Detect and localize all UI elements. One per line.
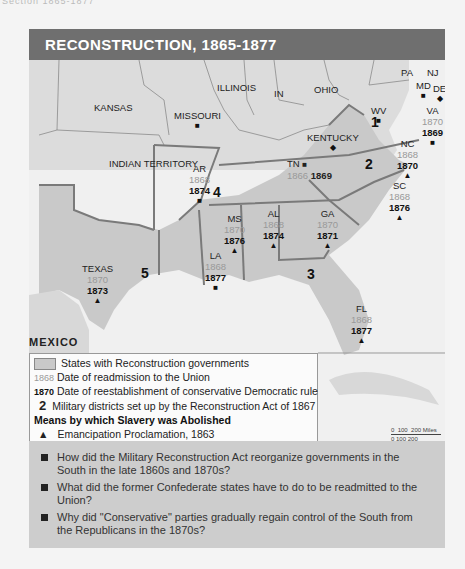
state-nc: NC18681870▲ [397, 138, 418, 180]
map-scale: 0 100 200 Miles 0 100 200 Kilometers [391, 427, 445, 441]
legend-readmission: 1868 Date of readmission to the Union [34, 371, 210, 383]
legend-district: 2Military districts set up by the Recons… [34, 398, 315, 413]
thirteenth-amendment-icon: ◆ [433, 94, 445, 103]
region-de: DE◆ [433, 83, 445, 103]
state-al: AL18681874▲ [263, 208, 284, 250]
emancipation-proclamation-icon: ▲ [82, 296, 113, 305]
state-tn: TN ■1866 1869 [287, 158, 332, 181]
region-ohio: OHIO [314, 84, 338, 95]
legend-emancipation: ▲Emancipation Proclamation, 1863 [34, 428, 214, 440]
emancipation-proclamation-icon: ▲ [397, 171, 418, 180]
region-illinois: ILLINOIS [217, 82, 256, 93]
state-fl: FL18681877▲ [351, 303, 372, 345]
emancipation-proclamation-icon: ▲ [389, 213, 410, 222]
emancipation-proclamation-icon: ▲ [317, 241, 338, 250]
bullet-icon [41, 454, 48, 461]
state-ar: AR18681874■ [189, 163, 210, 205]
question-1: How did the Military Reconstruction Act … [41, 451, 431, 477]
map-figure: RECONSTRUCTION, 1865-1877 [29, 29, 445, 548]
state-sc: SC18681876▲ [389, 180, 410, 222]
figure-header: RECONSTRUCTION, 1865-1877 [29, 29, 445, 60]
page-header-cut: Section 1865-1877 [2, 0, 95, 6]
military-district-4: 4 [213, 184, 221, 200]
region-indian-territory: INDIAN TERRITORY [109, 158, 198, 169]
military-district-3: 3 [307, 266, 315, 282]
bullet-icon [41, 484, 48, 491]
questions-box: How did the Military Reconstruction Act … [29, 441, 445, 548]
region-kentucky: KENTUCKY◆ [307, 132, 359, 152]
region-kansas: KANSAS [94, 102, 133, 113]
state-ms: MS18701876▲ [224, 213, 245, 255]
reconstruction-swatch [34, 358, 56, 370]
state-texas: TEXAS18701873▲ [82, 263, 113, 305]
figure-title: RECONSTRUCTION, 1865-1877 [45, 36, 277, 53]
state-action-icon: ■ [422, 138, 443, 147]
triangle-icon: ▲ [38, 428, 48, 440]
region-md: MD■ [416, 80, 431, 100]
emancipation-proclamation-icon: ▲ [263, 241, 284, 250]
region-missouri: MISSOURI■ [174, 110, 221, 130]
legend-conservative: 1870 Date of reestablishment of conserva… [34, 385, 318, 397]
state-va: VA18701869■ [422, 105, 443, 147]
emancipation-proclamation-icon: ▲ [224, 246, 245, 255]
legend-reconstruction-states: States with Reconstruction governments [34, 357, 249, 370]
state-la: LA18681877■ [205, 250, 226, 292]
region-pa: PA [401, 67, 413, 78]
question-2: What did the former Confederate states h… [41, 481, 431, 507]
military-district-2: 2 [365, 156, 373, 172]
state-ga: GA18701871▲ [317, 208, 338, 250]
state-action-icon: ■ [416, 91, 431, 100]
state-action-icon: ■ [189, 196, 210, 205]
reconstruction-map: KANSAS MISSOURI■ ILLINOIS IN OHIO PA NJ … [29, 60, 445, 441]
state-action-icon: ■ [205, 283, 226, 292]
question-3: Why did "Conservative" parties gradually… [41, 511, 431, 537]
legend-means-title: Means by which Slavery was Abolished [34, 414, 231, 426]
military-district-5: 5 [141, 265, 149, 281]
state-action-icon: ■ [174, 121, 221, 130]
map-legend: States with Reconstruction governments 1… [29, 353, 318, 441]
emancipation-proclamation-icon: ▲ [351, 336, 372, 345]
bullet-icon [41, 514, 48, 521]
region-nj: NJ [427, 67, 439, 78]
thirteenth-amendment-icon: ◆ [307, 143, 359, 152]
region-mexico: MEXICO [29, 337, 78, 348]
region-in: IN [274, 88, 284, 99]
military-district-1: 1 [371, 114, 379, 130]
